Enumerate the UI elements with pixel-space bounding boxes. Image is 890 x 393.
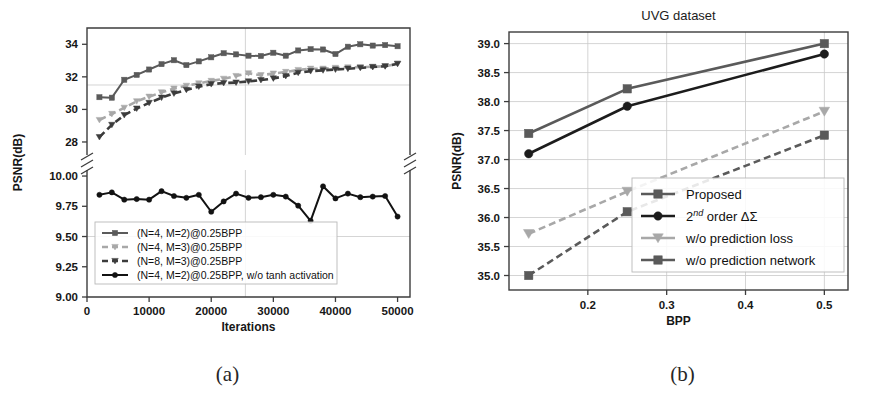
legend-a-item-3[interactable]: (N=4, M=2)@0.25BPP, w/o tanh activation [102,269,334,281]
chart-b-title: UVG dataset [641,8,716,23]
y-tick-label: 36.5 [478,183,501,195]
x-tick-label: 30000 [257,305,289,317]
y-tick-label: 38.0 [478,96,500,108]
legend-b: Proposed2nd order ΔΣw/o prediction lossw… [632,178,844,272]
x-tick-label: 10000 [133,305,165,317]
y-tick-label: 10.00 [49,170,78,182]
data-point-marker [271,50,276,55]
data-point-marker [171,193,176,198]
y-tick-label: 28 [65,136,78,148]
legend-marker-icon [654,190,662,198]
y-tick-label: 38.5 [478,67,501,79]
data-point-marker [623,208,631,216]
chart-b-canvas: UVG dataset35.035.536.036.537.037.538.03… [445,0,890,340]
data-point-marker [271,192,276,197]
data-point-marker [296,48,301,53]
legend-a-item-label: (N=4, M=2)@0.25BPP, w/o tanh activation [137,269,334,281]
data-point-marker [258,195,263,200]
data-point-marker [345,191,350,196]
y-tick-label: 35.0 [478,270,500,282]
data-point-marker [820,50,828,58]
axis-break-marks-a [81,153,416,174]
y-tick-label: 36.0 [478,212,500,224]
data-point-marker [525,150,533,158]
legend-a-item-label: (N=8, M=3)@0.25BPP [137,255,242,267]
data-point-marker [233,52,238,57]
x-axis-title: BPP [666,314,691,328]
panel-b-caption: (b) [445,362,890,387]
series-b-1 [525,50,829,158]
y-tick-label: 9.50 [56,231,78,243]
data-point-marker [246,53,251,58]
data-point-marker [395,44,400,49]
data-point-marker [134,72,139,77]
legend-marker-icon [112,272,117,277]
data-point-marker [122,197,127,202]
y-tick-label: 30 [65,103,78,115]
x-tick-label: 0 [84,305,90,317]
y-axis-title: PSNR(dB) [11,134,25,191]
data-point-marker [122,77,127,82]
data-point-marker [308,47,313,52]
x-axis-title: Iterations [221,320,275,334]
data-point-marker [96,134,103,140]
y-tick-label: 34 [65,38,78,50]
data-point-marker [109,95,114,100]
data-point-marker [258,53,263,58]
chart-a-canvas: 283032349.009.259.509.7510.0001000020000… [0,0,445,340]
data-point-marker [523,230,534,239]
data-point-marker [184,195,189,200]
data-point-marker [819,107,830,116]
data-point-marker [196,59,201,64]
data-point-marker [820,39,828,47]
y-tick-label: 9.25 [56,261,79,273]
y-tick-label: 39.0 [478,38,500,50]
data-point-marker [159,62,164,67]
figure-root: 283032349.009.259.509.7510.0001000020000… [0,0,890,393]
data-point-marker [97,95,102,100]
data-point-marker [147,197,152,202]
data-point-marker [320,47,325,52]
y-tick-label: 37.0 [478,154,500,166]
data-point-marker [147,67,152,72]
panel-a: 283032349.009.259.509.7510.0001000020000… [0,0,445,393]
data-point-marker [623,85,631,93]
data-point-marker [333,51,338,56]
data-point-marker [358,42,363,47]
y-axis-title: PSNR(dB) [450,132,464,189]
legend-marker-icon [654,256,662,264]
data-point-marker [97,192,102,197]
x-tick-label: 0.3 [659,299,675,311]
data-point-marker [320,184,325,189]
legend-marker-icon [654,212,662,220]
series-b-0 [525,39,829,137]
y-tick-label: 32 [65,71,78,83]
data-point-marker [109,190,114,195]
y-tick-label: 35.5 [478,241,501,253]
y-tick-label: 9.75 [56,200,79,212]
y-tick-label: 37.5 [478,125,501,137]
x-tick-label: 50000 [382,305,414,317]
data-point-marker [221,199,226,204]
panel-b: UVG dataset35.035.536.036.537.037.538.03… [445,0,890,393]
data-point-marker [345,44,350,49]
data-point-marker [820,131,828,139]
legend-b-item-label: w/o prediction loss [685,231,793,246]
data-point-marker [221,51,226,56]
data-point-marker [283,53,288,58]
legend-b-item-label: Proposed [686,187,742,202]
legend-a-item-label: (N=4, M=2)@0.25BPP [137,227,242,239]
data-point-marker [358,195,363,200]
data-point-marker [370,194,375,199]
panel-a-caption: (a) [0,362,445,387]
legend-a: (N=4, M=2)@0.25BPP(N=4, M=3)@0.25BPP(N=8… [95,222,337,284]
data-point-marker [333,196,338,201]
legend-marker-icon [112,230,117,235]
data-point-marker [383,42,388,47]
data-point-marker [395,214,400,219]
series-a-3 [97,184,400,224]
data-point-marker [171,58,176,63]
data-point-marker [623,102,631,110]
data-point-marker [134,196,139,201]
data-point-marker [525,129,533,137]
